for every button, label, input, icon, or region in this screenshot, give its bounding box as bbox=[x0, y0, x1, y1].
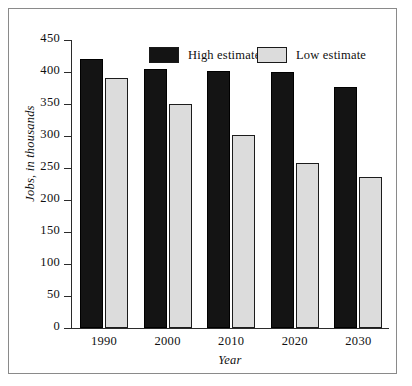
y-axis-tick: 450 bbox=[64, 40, 71, 41]
y-axis-tick-label: 200 bbox=[40, 191, 60, 206]
y-axis-tick: 350 bbox=[64, 104, 71, 105]
y-axis-tick: 250 bbox=[64, 168, 71, 169]
x-axis-tick-label: 2010 bbox=[196, 334, 266, 349]
bar-high-2010 bbox=[207, 71, 230, 328]
y-axis-tick: 150 bbox=[64, 232, 71, 233]
x-axis-tick-label: 1990 bbox=[69, 334, 139, 349]
y-axis-tick: 400 bbox=[64, 72, 71, 73]
y-axis-tick: 0 bbox=[64, 328, 71, 329]
chart-figure: High estimate Low estimate 0501001502002… bbox=[8, 8, 397, 374]
y-axis-tick: 300 bbox=[64, 136, 71, 137]
x-axis-line bbox=[71, 328, 389, 329]
y-axis-line bbox=[71, 40, 72, 329]
bar-low-2000 bbox=[169, 104, 192, 328]
y-axis-tick-label: 100 bbox=[40, 255, 60, 270]
bar-low-1990 bbox=[105, 78, 128, 328]
bar-high-1990 bbox=[80, 59, 103, 328]
y-axis-tick-label: 300 bbox=[40, 127, 60, 142]
y-axis-tick: 100 bbox=[64, 264, 71, 265]
y-axis-tick-label: 400 bbox=[40, 63, 60, 78]
y-axis-tick: 50 bbox=[64, 296, 71, 297]
y-axis-tick-label: 0 bbox=[53, 319, 60, 334]
y-axis-tick: 200 bbox=[64, 200, 71, 201]
bar-high-2000 bbox=[144, 69, 167, 328]
bar-low-2010 bbox=[232, 135, 255, 328]
bar-high-2030 bbox=[334, 87, 357, 328]
bar-low-2020 bbox=[296, 163, 319, 328]
x-axis-tick-label: 2020 bbox=[260, 334, 330, 349]
bar-low-2030 bbox=[359, 177, 382, 328]
y-axis-tick-label: 50 bbox=[47, 287, 60, 302]
y-axis-tick-label: 350 bbox=[40, 95, 60, 110]
y-axis-tick-label: 450 bbox=[40, 31, 60, 46]
plot-area: 050100150200250300350400450 199020002010… bbox=[71, 40, 389, 328]
bar-high-2020 bbox=[271, 72, 294, 328]
x-axis-tick-label: 2030 bbox=[323, 334, 393, 349]
x-axis-tick-label: 2000 bbox=[133, 334, 203, 349]
y-axis-tick-label: 250 bbox=[40, 159, 60, 174]
y-axis-title: Jobs, in thousands bbox=[23, 9, 39, 298]
x-axis-title: Year bbox=[71, 353, 389, 368]
y-axis-tick-label: 150 bbox=[40, 223, 60, 238]
